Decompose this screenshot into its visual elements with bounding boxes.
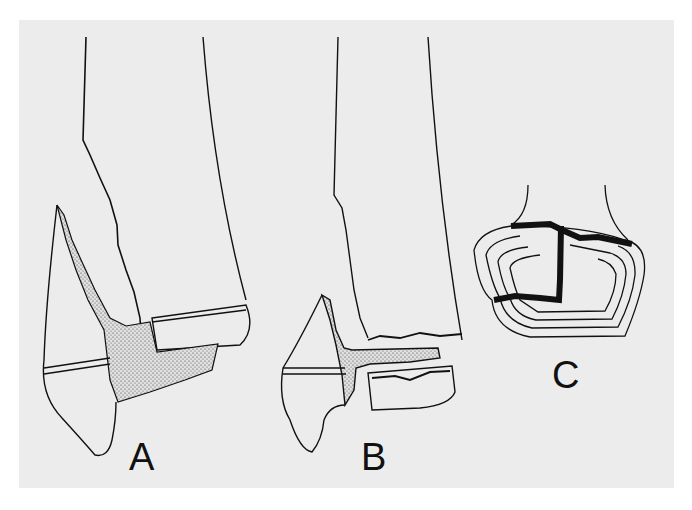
- panel-a-drawing: [43, 37, 249, 455]
- panel-b-drawing: [282, 37, 462, 452]
- panel-label-b: B: [361, 438, 386, 476]
- panel-c-drawing: [474, 185, 645, 337]
- fracture-illustration: [0, 0, 692, 510]
- panel-label-a: A: [129, 438, 154, 476]
- panel-label-c: C: [552, 356, 579, 394]
